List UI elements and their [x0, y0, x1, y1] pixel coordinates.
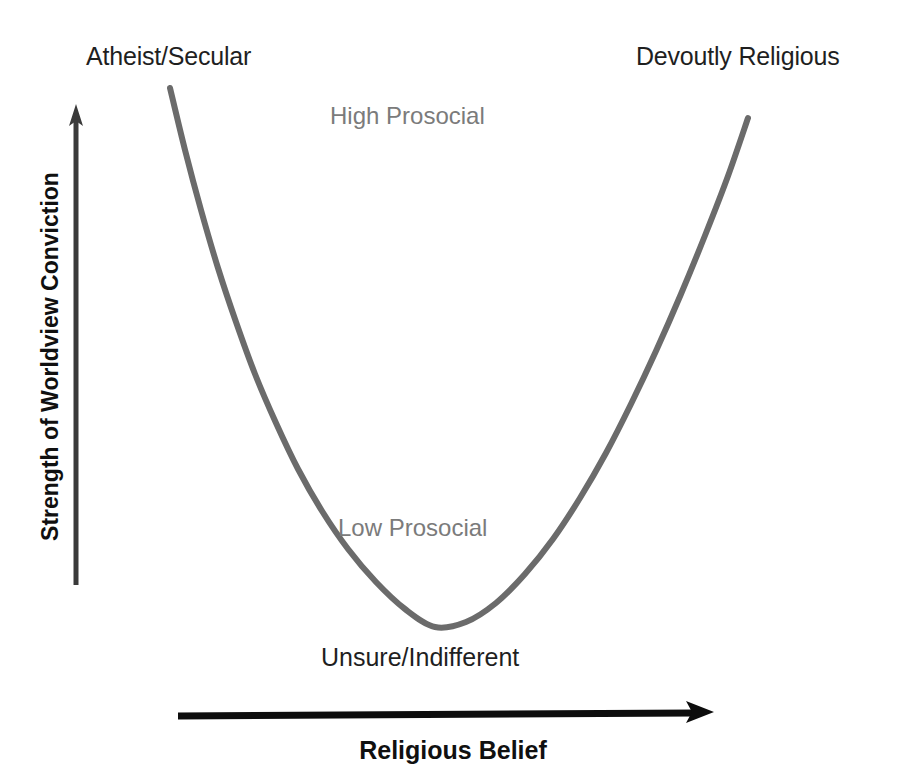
annotation-high-prosocial: High Prosocial: [330, 104, 485, 128]
chart-figure: Atheist/Secular Devoutly Religious High …: [0, 0, 906, 779]
x-tick-label-center: Unsure/Indifferent: [321, 645, 519, 670]
x-tick-label-right: Devoutly Religious: [636, 44, 839, 69]
x-axis-arrow: [178, 701, 714, 723]
x-axis-title: Religious Belief: [0, 738, 906, 763]
y-axis-arrow: [69, 104, 83, 585]
y-axis-title: Strength of Worldview Conviction: [39, 77, 62, 637]
data-curve-u-shape: [170, 88, 748, 628]
x-tick-label-left: Atheist/Secular: [86, 44, 251, 69]
annotation-low-prosocial: Low Prosocial: [338, 516, 487, 540]
